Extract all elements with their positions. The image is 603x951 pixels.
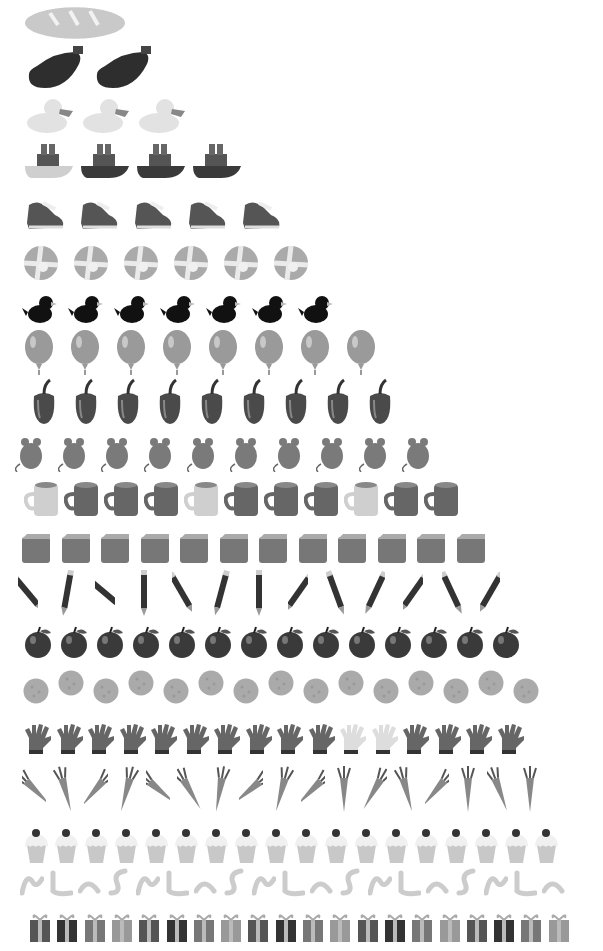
gift-icon: [383, 912, 407, 944]
mouse-icon: [15, 430, 47, 472]
mouse-icon: [187, 430, 219, 472]
carrot-icon: [363, 766, 387, 812]
shoe-icon: [133, 193, 173, 231]
glove-icon: [496, 722, 526, 754]
cookie-icon: [443, 678, 469, 704]
worm-icon: [281, 867, 305, 897]
worm-icon: [397, 867, 421, 897]
worm-icon: [49, 867, 73, 897]
pencil-icon: [95, 570, 115, 616]
worm-icon: [223, 867, 247, 897]
carrot-icon: [208, 766, 232, 812]
carrot-icon: [394, 766, 418, 812]
block-icon: [100, 533, 130, 564]
block-icon: [337, 533, 367, 564]
carrot-icon: [84, 766, 108, 812]
apple-icon: [383, 625, 413, 661]
pencil-icon: [57, 570, 77, 616]
block-icon: [258, 533, 288, 564]
carrot-icon: [22, 766, 46, 812]
pencil-icon: [134, 570, 154, 616]
pencil-icon: [172, 570, 192, 616]
shoe-icon: [25, 193, 65, 231]
duck-icon: [25, 95, 75, 133]
pepper-icon: [72, 378, 100, 426]
mug-icon: [264, 480, 300, 518]
mug-icon: [424, 480, 460, 518]
pepper-icon: [240, 378, 268, 426]
worm-icon: [107, 867, 131, 897]
carrot-icon: [487, 766, 511, 812]
apple-icon: [95, 625, 125, 661]
bread-icon: [25, 5, 125, 41]
cookie-icon: [268, 670, 294, 696]
gift-icon: [55, 912, 79, 944]
apple-icon: [203, 625, 233, 661]
carrot-icon: [146, 766, 170, 812]
eggplant-icon: [93, 44, 153, 88]
cupcake-icon: [263, 827, 290, 865]
block-icon: [140, 533, 170, 564]
carrot-icon: [456, 766, 480, 812]
boat-icon: [23, 140, 75, 180]
carrot-icon: [53, 766, 77, 812]
balloon-icon: [161, 330, 193, 375]
pepper-icon: [366, 378, 394, 426]
ball-icon: [23, 245, 59, 281]
cookie-icon: [58, 670, 84, 696]
cookie-icon: [198, 670, 224, 696]
cookie-icon: [93, 678, 119, 704]
cookie-icon: [513, 678, 539, 704]
worm-icon: [513, 867, 537, 897]
block-icon: [219, 533, 249, 564]
gift-icon: [83, 912, 107, 944]
glove-icon: [86, 722, 116, 754]
pepper-icon: [282, 378, 310, 426]
block-icon: [21, 533, 51, 564]
cookie-icon: [478, 670, 504, 696]
glove-icon: [55, 722, 85, 754]
mug-icon: [104, 480, 140, 518]
glove-icon: [149, 722, 179, 754]
cupcake-icon: [23, 827, 50, 865]
cookie-icon: [23, 678, 49, 704]
balloon-icon: [69, 330, 101, 375]
pencil-icon: [211, 570, 231, 616]
gift-icon: [165, 912, 189, 944]
gift-icon: [301, 912, 325, 944]
mug-icon: [144, 480, 180, 518]
glove-icon: [181, 722, 211, 754]
cookie-icon: [408, 670, 434, 696]
glove-icon: [338, 722, 368, 754]
bird-icon: [68, 290, 104, 326]
cupcake-icon: [353, 827, 380, 865]
gift-icon: [356, 912, 380, 944]
carrot-icon: [239, 766, 263, 812]
mug-icon: [184, 480, 220, 518]
carrot-icon: [425, 766, 449, 812]
pencil-icon: [288, 570, 308, 616]
worm-icon: [339, 867, 363, 897]
cupcake-icon: [53, 827, 80, 865]
apple-icon: [419, 625, 449, 661]
mouse-icon: [101, 430, 133, 472]
mouse-icon: [230, 430, 262, 472]
glove-icon: [370, 722, 400, 754]
carrot-icon: [518, 766, 542, 812]
gift-icon: [438, 912, 462, 944]
worm-icon: [542, 867, 566, 897]
carrot-icon: [301, 766, 325, 812]
pencil-icon: [249, 570, 269, 616]
gift-icon: [219, 912, 243, 944]
cookie-icon: [128, 670, 154, 696]
block-icon: [298, 533, 328, 564]
block-icon: [61, 533, 91, 564]
balloon-icon: [299, 330, 331, 375]
bird-icon: [160, 290, 196, 326]
bird-icon: [298, 290, 334, 326]
cupcake-icon: [473, 827, 500, 865]
cookie-icon: [163, 678, 189, 704]
block-icon: [456, 533, 486, 564]
worm-icon: [426, 867, 450, 897]
shoe-icon: [79, 193, 119, 231]
